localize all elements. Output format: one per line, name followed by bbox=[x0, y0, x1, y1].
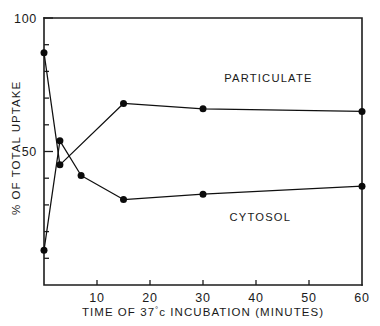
y-axis-tick-label: 100 bbox=[14, 12, 37, 26]
data-point-cytosol-3 bbox=[120, 196, 127, 203]
data-point-cytosol-1 bbox=[56, 137, 63, 144]
series-label-particulate: PARTICULATE bbox=[224, 72, 312, 84]
x-axis-tick-label: 50 bbox=[301, 291, 316, 305]
data-point-particulate-4 bbox=[359, 108, 366, 115]
x-axis-tick-labels: 102030405060 bbox=[89, 291, 369, 305]
data-point-particulate-0 bbox=[41, 49, 48, 56]
data-point-cytosol-2 bbox=[78, 172, 85, 179]
line-chart: 50100 102030405060 PARTICULATECYTOSOL % … bbox=[0, 0, 380, 326]
series-inline-labels: PARTICULATECYTOSOL bbox=[224, 72, 312, 223]
x-axis-tick-label: 10 bbox=[89, 291, 104, 305]
chart-axes bbox=[44, 18, 362, 285]
series-label-cytosol: CYTOSOL bbox=[230, 211, 292, 223]
data-point-cytosol-5 bbox=[359, 183, 366, 190]
data-point-cytosol-4 bbox=[200, 191, 207, 198]
x-axis-tick-label: 40 bbox=[248, 291, 263, 305]
data-point-cytosol-0 bbox=[41, 247, 48, 254]
chart-figure: 50100 102030405060 PARTICULATECYTOSOL % … bbox=[0, 0, 380, 326]
chart-frame-top-right bbox=[44, 18, 362, 285]
y-axis-tick-label: 50 bbox=[22, 145, 37, 159]
x-axis-tick-label: 60 bbox=[354, 291, 369, 305]
x-axis-tick-label: 30 bbox=[195, 291, 210, 305]
x-axis-tick-label: 20 bbox=[142, 291, 157, 305]
data-point-particulate-3 bbox=[200, 105, 207, 112]
y-axis-title: % OF TOTAL UPTAKE bbox=[10, 81, 22, 215]
x-axis-title: TIME OF 37°c INCUBATION (MINUTES) bbox=[82, 305, 324, 318]
data-point-particulate-2 bbox=[120, 100, 127, 107]
data-series-layer bbox=[41, 49, 366, 254]
data-point-particulate-1 bbox=[56, 161, 63, 168]
